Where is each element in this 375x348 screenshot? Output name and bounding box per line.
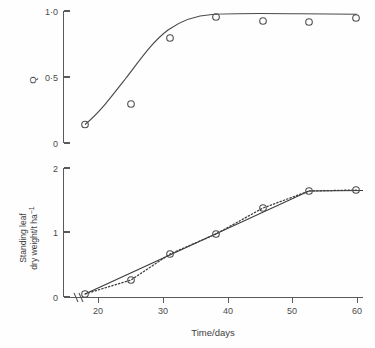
top-ytick-label-1: 1·0: [45, 7, 58, 17]
bottom-data-point: [128, 277, 135, 284]
top-data-point: [128, 101, 135, 108]
top-ytick-label-2: 0·5: [45, 73, 58, 83]
bottom-panel: 2 1 0 Standing leaf dry weight/t ha−1 20: [18, 164, 363, 339]
bottom-xtick-label-1: 20: [93, 306, 103, 316]
bottom-xtick-label-2: 30: [158, 306, 168, 316]
bottom-ytick-label-3: 0: [53, 293, 58, 303]
bottom-dotted-trend: [85, 190, 356, 294]
top-data-point: [167, 35, 174, 42]
bottom-xtick-label-4: 50: [287, 306, 297, 316]
bottom-data-point: [260, 205, 267, 212]
top-panel: 1·0 0·5 0 Q: [27, 7, 359, 149]
bottom-xtick-label-5: 60: [352, 306, 362, 316]
bottom-data-markers: [82, 187, 360, 298]
top-data-point: [260, 18, 267, 25]
top-y-axis-title: Q: [27, 76, 38, 83]
top-fitted-curve: [85, 13, 357, 124]
chart-canvas: 1·0 0·5 0 Q 2: [0, 0, 375, 348]
top-data-point: [306, 19, 313, 26]
bottom-y-axis-title: Standing leaf dry weight/t ha−1: [18, 206, 39, 269]
bottom-y-axis-title-line1: Standing leaf: [18, 213, 28, 263]
top-ytick-label-3: 0: [53, 139, 58, 149]
top-data-markers: [82, 14, 360, 128]
bottom-ytick-label-1: 2: [53, 164, 58, 174]
bottom-solid-trend: [85, 191, 363, 295]
figure-container: 1·0 0·5 0 Q 2: [0, 0, 375, 348]
bottom-ytick-label-2: 1: [53, 228, 58, 238]
bottom-x-axis-title: Time/days: [191, 327, 235, 338]
top-data-point: [353, 15, 360, 22]
bottom-xtick-label-3: 40: [223, 306, 233, 316]
bottom-y-axis-title-line2: dry weight/t ha−1: [28, 206, 39, 269]
